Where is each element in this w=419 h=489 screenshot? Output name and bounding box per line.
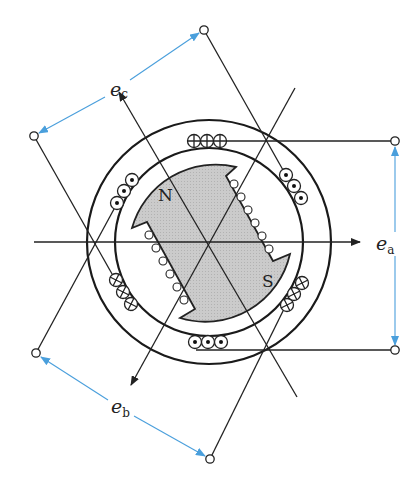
generator-diagram: ea ec eb N S (0, 0, 419, 489)
label-ec: ec (110, 78, 128, 101)
terminal-a-bottom (391, 346, 399, 354)
terminal-b-bottom (206, 455, 214, 463)
coil-group-bottom-dot (189, 336, 228, 349)
label-eb: eb (111, 395, 130, 420)
eb-voltage-arrow-right (134, 416, 205, 456)
terminal-b-left (32, 349, 40, 357)
eb-voltage-arrow-left (41, 357, 108, 400)
ec-voltage-arrow-left (39, 97, 105, 133)
terminal-c-left (30, 132, 38, 140)
lead-bottom-to-lower-right (210, 309, 284, 459)
coil-group-upper-left-dot (111, 174, 139, 210)
label-north-pole: N (158, 185, 173, 205)
terminal-c-top (200, 26, 208, 34)
label-south-pole: S (262, 271, 274, 291)
ec-voltage-arrow-right (130, 33, 199, 80)
coil-group-top-cross (188, 135, 227, 148)
rotor (132, 165, 290, 322)
terminal-a-top (391, 137, 399, 145)
label-ea: ea (376, 232, 394, 257)
lead-bottomleft-to-upper-left (36, 198, 120, 353)
